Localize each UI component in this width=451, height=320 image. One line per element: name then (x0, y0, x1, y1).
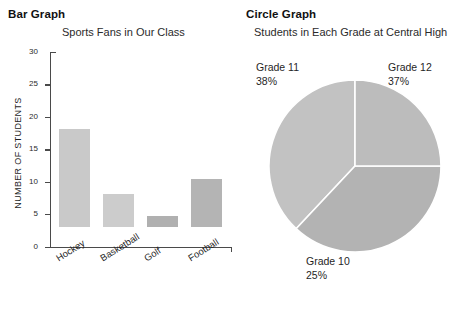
bar-chart-plot-area: 051015202530 NUMBER OF STUDENTS HockeyBa… (0, 0, 232, 300)
pie-label-grade-10: Grade 10 25% (306, 254, 350, 282)
y-tick-mark (45, 214, 51, 215)
y-tick-label: 0 (20, 243, 38, 251)
y-tick-mark (45, 247, 51, 248)
y-tick-mark (45, 149, 51, 150)
bar-football (191, 179, 222, 227)
x-label-football: Football (186, 236, 221, 263)
y-tick-mark (45, 117, 51, 118)
pie-label-grade-10-name: Grade 10 (306, 255, 350, 267)
pie-label-grade-11-percent: 38% (256, 74, 299, 88)
y-tick-label: 30 (20, 48, 38, 56)
circle-graph-panel: Circle Graph Students in Each Grade at C… (232, 0, 451, 320)
bar-hockey (59, 129, 90, 226)
y-tick-mark (50, 52, 56, 53)
pie-label-grade-11: Grade 11 38% (256, 60, 299, 88)
pie-label-grade-11-name: Grade 11 (256, 61, 299, 73)
pie-label-grade-10-percent: 25% (306, 268, 350, 282)
pie-label-grade-12-name: Grade 12 (388, 61, 432, 73)
pie-slice-grade-10 (355, 80, 441, 166)
bar-golf (147, 216, 178, 227)
y-tick-mark (45, 182, 51, 183)
bar-basketball (103, 194, 134, 226)
bar-graph-panel: Bar Graph Sports Fans in Our Class 05101… (0, 0, 232, 320)
y-tick-mark (45, 84, 51, 85)
x-label-hockey: Hockey (54, 237, 87, 263)
pie-label-grade-12: Grade 12 37% (388, 60, 432, 88)
pie-label-grade-12-percent: 37% (388, 74, 432, 88)
y-axis-title: NUMBER OF STUDENTS (13, 78, 23, 228)
